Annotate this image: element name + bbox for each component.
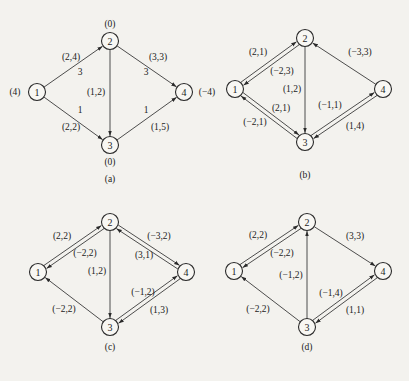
edge-label: (1,2)	[88, 266, 106, 277]
edge-label: (3,3)	[149, 52, 167, 63]
edge-label: (−2,3)	[270, 66, 294, 77]
edge-flow-value: 3	[144, 67, 149, 77]
edge-label: (3,1)	[135, 250, 153, 261]
edge-label: (−1,2)	[279, 270, 303, 281]
node-4: 4	[375, 81, 392, 98]
edge-label: (−1,1)	[318, 100, 342, 111]
edge-flow-value: 3	[78, 67, 83, 77]
edge-label: (1,4)	[346, 121, 364, 132]
edge-3-1: (−2,2)	[45, 277, 103, 321]
edge-1-2: (2,1)	[241, 42, 297, 83]
node-supply: (0)	[104, 157, 115, 168]
edge-label: (−3,3)	[348, 47, 372, 58]
node-label: 1	[233, 84, 238, 95]
edge-1-3: (2,1)	[243, 93, 299, 135]
arrow-line	[45, 277, 103, 321]
node-3: 3	[102, 137, 119, 154]
node-supply: (0)	[104, 19, 115, 30]
panel-c: (2,2)(−2,2)(1,2)(−2,2)(3,1)(−3,2)(1,3)(−…	[30, 214, 195, 354]
edge-label: (−1,2)	[131, 287, 155, 298]
node-1: 1	[29, 84, 46, 101]
edge-label: (−2,1)	[243, 117, 267, 128]
edge-label: (−2,2)	[52, 304, 76, 315]
node-label: 2	[108, 36, 113, 47]
edge-3-4: (1,3)	[116, 276, 178, 321]
edge-2-4: (3,3)	[314, 227, 375, 267]
arrow-line	[243, 93, 299, 135]
edge-1-2: (2,4)3	[44, 46, 103, 87]
edge-4-2: (−3,2)	[116, 229, 177, 269]
network-flow-figure: (2,4)3(2,2)1(1,2)(3,3)3(1,5)1(4)1(0)2(0)…	[0, 0, 409, 381]
edge-1-3: (2,2)1	[44, 97, 103, 140]
node-label: 3	[305, 322, 310, 333]
node-3: 3	[102, 319, 119, 336]
edge-label: (1,2)	[283, 84, 301, 95]
edge-4-3: (−1,4)	[315, 278, 377, 324]
edge-label: (1,2)	[87, 87, 105, 98]
node-label: 2	[303, 33, 308, 44]
node-1: 1	[226, 263, 243, 280]
edge-label: (2,4)	[62, 52, 80, 63]
edge-2-3: (1,2)	[88, 231, 110, 319]
node-supply: (4)	[9, 87, 20, 98]
arrow-line	[117, 97, 177, 140]
edge-label: (−2,2)	[73, 248, 97, 259]
node-label: 3	[108, 322, 113, 333]
edge-3-2: (−1,2)	[279, 231, 307, 319]
node-label: 2	[305, 217, 310, 228]
node-label: 3	[303, 137, 308, 148]
edge-label: (2,1)	[249, 47, 267, 58]
edge-3-4: (1,5)1	[117, 97, 177, 140]
node-4: 4	[375, 263, 392, 280]
edge-label: (1,5)	[151, 122, 169, 133]
panel-caption: (b)	[299, 170, 310, 181]
edge-2-3: (1,2)	[283, 47, 305, 134]
edge-2-4: (3,3)3	[117, 46, 177, 87]
node-2: 2	[102, 214, 119, 231]
edge-4-3: (−1,1)	[314, 95, 378, 138]
node-label: 4	[182, 87, 187, 98]
node-3: 3	[299, 319, 316, 336]
arrow-line	[311, 92, 375, 135]
node-4: 4	[178, 264, 195, 281]
edge-label: (2,2)	[53, 231, 71, 242]
node-1: 1	[30, 264, 47, 281]
edge-1-2: (2,2)	[44, 225, 102, 265]
edge-2-3: (1,2)	[87, 50, 110, 137]
node-2: 2	[102, 33, 119, 50]
edge-label: (2,2)	[62, 122, 80, 133]
node-label: 2	[108, 217, 113, 228]
edge-4-2: (−3,3)	[313, 43, 376, 84]
edge-flow-value: 1	[144, 105, 149, 115]
node-label: 3	[108, 140, 113, 151]
edge-label: (−2,2)	[270, 248, 294, 259]
edge-4-3: (−1,2)	[118, 279, 180, 324]
panel-d: (2,2)(−2,2)(−1,2)(−2,2)(3,3)(1,1)(−1,4)1…	[226, 214, 392, 354]
node-label: 4	[184, 267, 189, 278]
node-4: 4	[176, 84, 193, 101]
edge-3-4: (1,4)	[311, 92, 375, 135]
node-label: 4	[381, 266, 386, 277]
node-2: 2	[297, 30, 314, 47]
edge-1-2: (2,2)	[240, 225, 298, 264]
panel-caption: (d)	[301, 342, 312, 353]
node-label: 1	[232, 266, 237, 277]
arrow-line	[44, 97, 103, 140]
edge-3-1: (−2,2)	[241, 276, 300, 321]
edge-label: (1,1)	[346, 305, 364, 316]
edge-flow-value: 1	[78, 105, 83, 115]
node-label: 4	[381, 84, 386, 95]
arrow-line	[118, 279, 180, 324]
arrow-line	[241, 276, 300, 321]
edge-label: (3,3)	[346, 231, 364, 242]
edge-label: (1,3)	[150, 305, 168, 316]
edge-label: (2,2)	[249, 230, 267, 241]
edge-label: (2,1)	[272, 103, 290, 114]
edge-label: (−2,2)	[246, 304, 270, 315]
panel-caption: (c)	[105, 342, 116, 353]
arrow-line	[314, 227, 375, 267]
panel-b: (2,1)(−2,3)(2,1)(−2,1)(1,2)(−3,3)(1,4)(−…	[227, 30, 392, 182]
node-2: 2	[299, 214, 316, 231]
edge-label: (−3,2)	[147, 231, 171, 242]
node-3: 3	[297, 134, 314, 151]
